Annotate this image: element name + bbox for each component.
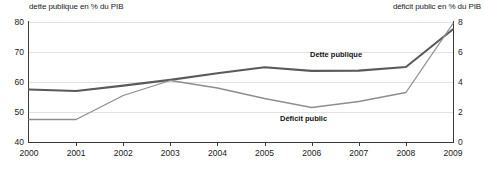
series-lines [0, 0, 484, 169]
chart-container: dette publique en % du PIB déficit publi… [0, 0, 484, 169]
series-label-deficit-public: Déficit public [280, 114, 327, 123]
series-label-dette-publique: Dette publique [310, 50, 362, 59]
line-dette-publique [29, 29, 453, 91]
line-deficit-public [29, 24, 453, 120]
